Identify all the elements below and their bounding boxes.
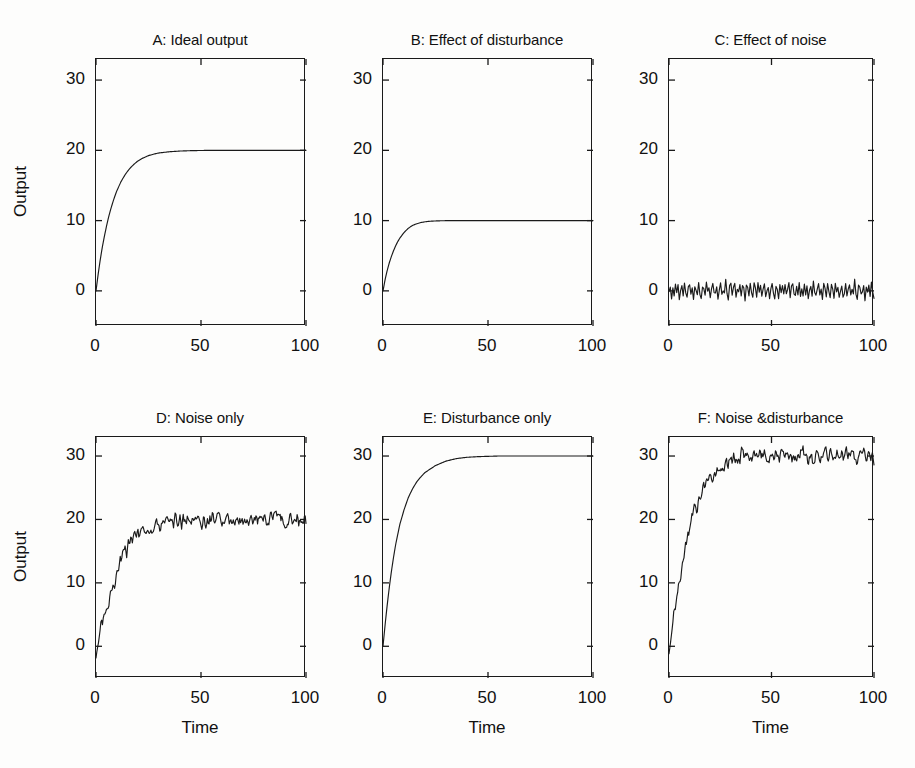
x-axis-tick-label: 0 xyxy=(628,689,708,706)
panel-title-f: F: Noise &disturbance xyxy=(668,409,873,427)
data-line-f xyxy=(669,446,874,654)
y-axis-tick-label: 10 xyxy=(610,573,658,590)
figure-canvas: A: Ideal output0102030050100OutputB: Eff… xyxy=(0,0,915,768)
x-axis-tick-label: 50 xyxy=(731,689,811,706)
y-axis-tick-label: 30 xyxy=(610,446,658,463)
panel-f: F: Noise &disturbance0102030050100Time xyxy=(0,0,915,768)
y-axis-tick-label: 0 xyxy=(610,636,658,653)
series-canvas-f xyxy=(669,437,874,678)
plot-area-f xyxy=(668,436,873,677)
y-axis-tick-label: 20 xyxy=(610,509,658,526)
x-axis-tick-label: 100 xyxy=(833,689,913,706)
x-axis-label: Time xyxy=(668,719,873,736)
